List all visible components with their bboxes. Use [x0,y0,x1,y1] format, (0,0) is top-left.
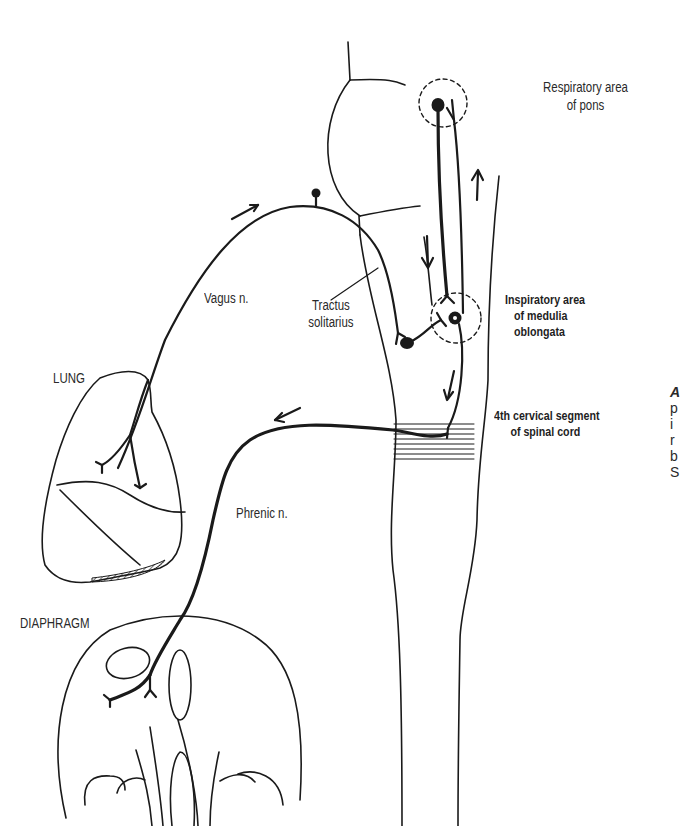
brain-outline [328,42,420,235]
diaphragm-outline [58,616,301,826]
caption-fragment: r [670,432,680,448]
label-line: oblongata [505,324,585,340]
caption-fragment: p [670,400,680,416]
cervical-segment-band [394,424,474,459]
label-cervical-segment: 4th cervical segment of spinal cord [494,408,599,440]
label-lung: LUNG [53,370,85,386]
label-line: Respiratory area [524,78,647,96]
label-line: Tractus [294,297,368,314]
label-line: 4th cervical segment [494,408,599,424]
label-vagus-nerve: Vagus n. [204,290,248,306]
caption-fragment: A [670,384,680,400]
pons-respiratory-center [419,79,467,313]
lung-outline [42,372,185,583]
label-respiratory-area-pons: Respiratory area of pons [524,78,647,114]
label-line: of pons [524,96,647,114]
label-line: of medulia [505,308,585,324]
arrow-medulla-to-cord [444,371,454,400]
caption-fragment: i [670,416,680,432]
brainstem-spinal-cord-outline [360,176,499,826]
clipped-figure-caption: A p i r b S [670,384,680,480]
label-phrenic-nerve: Phrenic n. [236,505,288,521]
arrow-vagus-afferent [232,205,258,219]
arrow-pons-ascending [472,170,483,200]
label-line: of spinal cord [494,424,599,440]
caption-fragment: b [670,448,680,464]
label-diaphragm: DIAPHRAGM [20,615,90,631]
label-line: solitarius [294,314,368,331]
label-inspiratory-area-medulla: Inspiratory area of medulia oblongata [505,292,585,340]
arrow-phrenic-efferent [275,408,300,422]
label-line: Inspiratory area [505,292,585,308]
label-tractus-solitarius: Tractus solitarius [294,297,368,331]
arrow-pons-descending [422,236,433,268]
medulla-inspiratory-center [410,293,481,438]
caption-fragment: S [670,464,680,480]
